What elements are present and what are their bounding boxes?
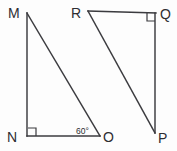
segment-rq	[88, 11, 156, 13]
vertex-label-q: Q	[160, 6, 171, 22]
vertex-label-r: R	[71, 5, 81, 21]
segment-mo	[27, 13, 100, 136]
right-angle-marker-n	[28, 128, 36, 136]
geometry-figure: M N O R Q P 60°	[0, 0, 177, 151]
angle-label-o: 60°	[76, 126, 89, 136]
vertex-label-p: P	[158, 130, 167, 146]
right-angle-marker-q	[147, 13, 155, 21]
vertex-label-o: O	[103, 129, 114, 145]
vertex-label-m: M	[8, 5, 20, 21]
triangle-rqp	[88, 11, 156, 133]
segment-rp	[88, 11, 155, 133]
vertex-label-n: N	[7, 129, 17, 145]
geometry-canvas: M N O R Q P 60°	[0, 0, 177, 151]
triangle-mno	[27, 13, 100, 136]
